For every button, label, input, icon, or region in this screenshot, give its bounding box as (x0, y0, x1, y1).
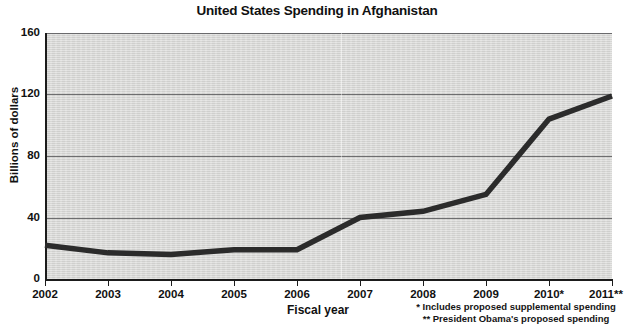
page-title: United States Spending in Afghanistan (0, 3, 634, 18)
x-tick-label-2011: 2011** (571, 288, 634, 300)
data-series-line (45, 33, 612, 280)
x-tick-label-2008: 2008 (388, 288, 458, 300)
x-tick-2004 (171, 281, 172, 286)
x-tick-2011 (612, 281, 613, 286)
x-tick-2010 (549, 281, 550, 286)
x-tick-2003 (108, 281, 109, 286)
y-tick-label-80: 80 (0, 149, 40, 161)
x-tick-2006 (297, 281, 298, 286)
x-tick-2005 (234, 281, 235, 286)
x-tick-2008 (423, 281, 424, 286)
y-tick-label-120: 120 (0, 87, 40, 99)
y-tick-label-0: 0 (0, 272, 40, 284)
x-tick-2009 (486, 281, 487, 286)
x-tick-label-2006: 2006 (262, 288, 332, 300)
x-axis-title: Fiscal year (248, 303, 388, 317)
x-tick-label-2009: 2009 (451, 288, 521, 300)
x-tick-2002 (45, 281, 46, 286)
x-tick-2007 (360, 281, 361, 286)
x-tick-label-2002: 2002 (10, 288, 80, 300)
chart-figure: United States Spending in Afghanistan 16… (0, 0, 634, 334)
footnote-single-asterisk: * Includes proposed supplemental spendin… (398, 301, 634, 313)
footnote-double-asterisk: ** President Obama's proposed spending (398, 313, 634, 325)
footnotes: * Includes proposed supplemental spendin… (398, 301, 634, 324)
series-polyline (45, 96, 612, 254)
x-tick-label-2007: 2007 (325, 288, 395, 300)
y-axis-title: Billions of dollars (8, 65, 20, 205)
x-tick-label-2004: 2004 (136, 288, 206, 300)
y-tick-label-160: 160 (0, 26, 40, 38)
y-tick-label-40: 40 (0, 211, 40, 223)
x-tick-label-2003: 2003 (73, 288, 143, 300)
x-tick-label-2005: 2005 (199, 288, 269, 300)
